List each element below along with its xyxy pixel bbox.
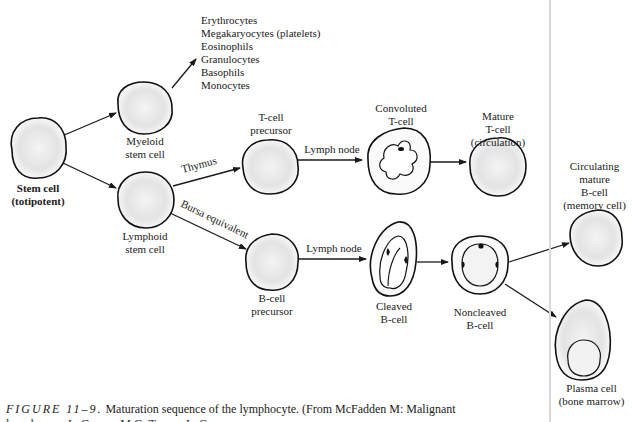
list-item: Megakaryocytes (platelets) [201,27,320,40]
myeloid-products-list: Erythrocytes Megakaryocytes (platelets) … [201,14,320,92]
convoluted-t-label: ConvolutedT-cell [368,102,434,128]
noncleaved-b-label: NoncleavedB-cell [448,306,512,332]
list-item: Eosinophils [201,40,320,53]
lymphoid-stem-cell-icon [118,172,174,228]
lymphocyte-maturation-diagram: Erythrocytes Megakaryocytes (platelets) … [0,0,633,422]
cleaved-b-label: CleavedB-cell [366,300,422,326]
list-item: Granulocytes [201,53,320,66]
noncleaved-b-cell-icon [452,236,508,294]
stem-cell-label: Stem cell(totipotent) [0,182,76,208]
mature-t-label: MatureT-cell(circulation) [466,110,530,149]
plasma-label: Plasma cell(bone marrow) [550,382,633,408]
cleaved-b-cell-icon [370,222,416,296]
memory-b-cell-icon [570,210,622,266]
arrow-stem-to-myeloid [62,113,116,136]
b-cell-precursor-icon [246,234,298,290]
edge-label-lymph-node-t: Lymph node [302,143,362,156]
figure-number: FIGURE 11–9. [6,402,102,416]
list-item: Monocytes [201,79,320,92]
edge-label-lymph-node-b: Lymph node [304,242,364,255]
t-cell-precursor-icon [243,140,299,194]
list-item: Basophils [201,66,320,79]
t-precursor-label: T-cellprecursor [240,111,302,137]
myeloid-stem-cell-icon [118,82,172,134]
lymphoid-label: Lymphoidstem cell [110,230,180,256]
figure-caption-line2: lymphomas. In Grosse, M.G. Tumor. In Can… [6,417,306,422]
list-item: Erythrocytes [201,14,320,27]
figure-caption: FIGURE 11–9. Maturation sequence of the … [6,402,456,417]
convoluted-t-cell-icon [368,128,430,194]
caption-text: Maturation sequence of the lymphocyte. (… [102,402,455,416]
b-precursor-label: B-cellprecursor [240,292,304,318]
myeloid-label: Myeloidstem cell [110,135,180,161]
arrow-to-memory [509,243,569,262]
column-divider [549,0,551,422]
arrow-myeloid-to-products [172,59,196,88]
memory-b-label: CirculatingmatureB-cell(memory cell) [556,160,633,212]
plasma-cell-icon [555,300,610,380]
stem-cell-icon [11,118,66,178]
